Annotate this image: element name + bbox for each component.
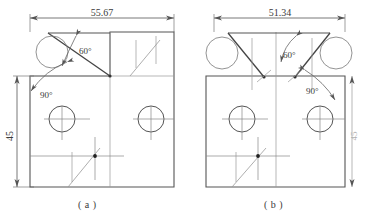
- diagonal-marker-upper-a: [130, 36, 160, 76]
- label-angle-90-b: 90°: [306, 86, 319, 96]
- caption-panel-a: ( a ): [78, 199, 97, 210]
- engineering-drawing-figure: 55.67 45 60° 90°: [0, 0, 366, 219]
- label-width-b: 51.34: [269, 7, 292, 18]
- notch-vertex-point-a: [108, 74, 111, 77]
- part-outline-b: [206, 32, 345, 187]
- arc-upper-left-b: [206, 37, 238, 69]
- center-mark-lower-b: [206, 137, 290, 187]
- hole-left-b: [222, 106, 268, 140]
- hole-left-a: [44, 106, 90, 140]
- notch-b: [228, 33, 330, 82]
- hole-right-b: [302, 106, 345, 140]
- label-angle-90-a: 90°: [40, 90, 53, 100]
- part-outline-a: [30, 32, 174, 187]
- caption-panel-b: ( b ): [264, 199, 283, 210]
- label-angle-60-b: 60°: [283, 50, 296, 60]
- label-angle-60-a: 60°: [79, 46, 92, 56]
- hole-right-a: [133, 106, 174, 140]
- label-width-a: 55.67: [91, 7, 114, 18]
- dimension-height-a: [13, 76, 34, 187]
- drawing-canvas: 55.67 45 60° 90°: [0, 0, 366, 219]
- panel-b-group: 51.34 45 60° 90°: [206, 7, 359, 187]
- panel-a-group: 55.67 45 60° 90°: [4, 7, 174, 187]
- notch-edge-right-b: [295, 33, 330, 77]
- diagonal-line-lower-b: [232, 148, 266, 187]
- center-point-a: [93, 154, 97, 158]
- diagonal-line-upper-a: [130, 40, 160, 76]
- part-profile-a: [30, 32, 174, 187]
- arc-upper-right-b: [320, 37, 352, 69]
- label-height-a: 45: [4, 131, 15, 141]
- notch-edge-left-b: [228, 33, 264, 77]
- label-height-b: 45: [349, 131, 359, 141]
- center-point-b: [256, 154, 260, 158]
